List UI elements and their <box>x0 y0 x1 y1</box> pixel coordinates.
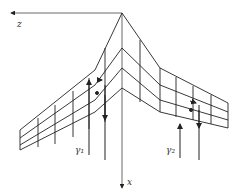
x-axis-label: x <box>127 177 132 187</box>
right-control-point <box>190 109 193 112</box>
gamma-1-label: γ₁ <box>75 145 84 155</box>
left-wing-lattice <box>20 13 122 150</box>
gamma-2-label: γ₂ <box>166 145 175 155</box>
left-horseshoe-vortex <box>89 80 105 160</box>
right-horseshoe-vortex <box>180 101 199 160</box>
z-axis-label: z <box>16 19 22 29</box>
left-control-point <box>96 92 99 95</box>
swept-wing-vortex-lattice-diagram: z x γ₁ γ₂ <box>0 0 240 196</box>
right-wing-lattice <box>122 13 228 128</box>
